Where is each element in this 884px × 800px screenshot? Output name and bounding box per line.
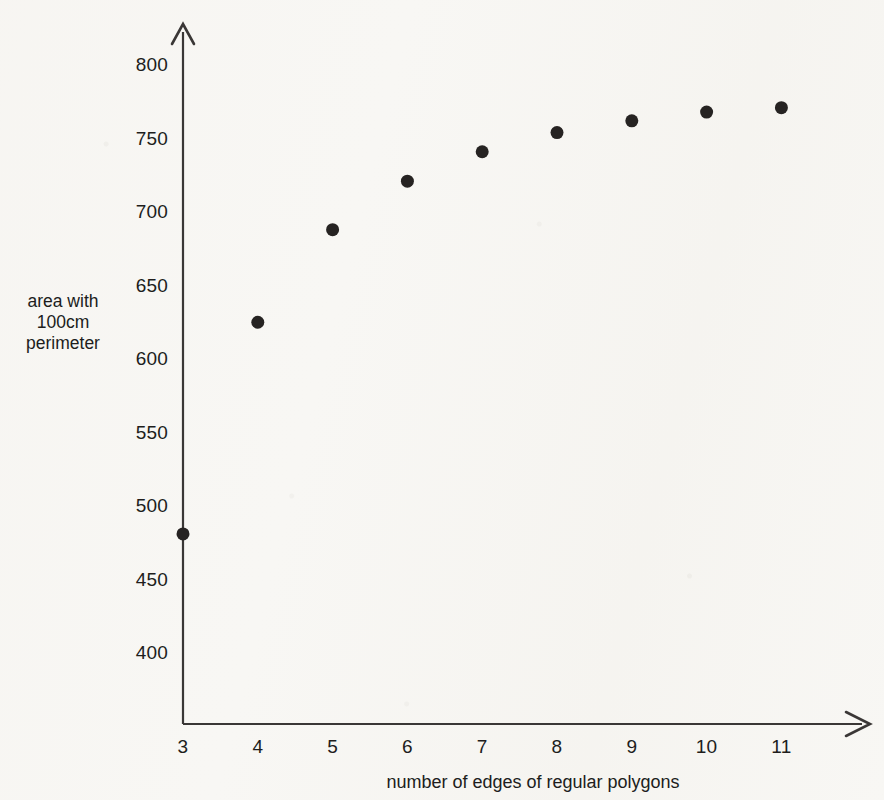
x-axis-title: number of edges of regular polygons — [183, 772, 883, 793]
data-point — [775, 101, 788, 114]
data-point — [551, 126, 564, 139]
data-point — [177, 527, 190, 540]
x-axis-tick-label: 10 — [682, 736, 732, 758]
x-axis-tick-label: 11 — [756, 736, 806, 758]
y-axis-title: area with 100cm perimeter — [4, 291, 122, 354]
data-point — [476, 145, 489, 158]
data-point — [700, 106, 713, 119]
x-axis-tick-label: 7 — [457, 736, 507, 758]
x-axis-tick-label: 8 — [532, 736, 582, 758]
scatter-plot-canvas — [0, 0, 884, 800]
y-axis-tick-label: 800 — [118, 54, 168, 76]
x-axis-tick-label: 6 — [382, 736, 432, 758]
y-axis-tick-label: 550 — [118, 422, 168, 444]
y-axis-tick-label: 700 — [118, 201, 168, 223]
y-axis-tick-label: 500 — [118, 495, 168, 517]
x-axis-tick-label: 3 — [158, 736, 208, 758]
data-point — [625, 114, 638, 127]
chart-page: 400450500550600650700750800 34567891011 … — [0, 0, 884, 800]
y-axis-tick-label: 600 — [118, 348, 168, 370]
x-axis-tick-label: 4 — [233, 736, 283, 758]
y-axis-tick-label: 450 — [118, 569, 168, 591]
y-axis-tick-label: 650 — [118, 275, 168, 297]
y-axis-title-line-2: 100cm — [4, 312, 122, 333]
y-axis-tick-label: 400 — [118, 642, 168, 664]
y-axis-title-line-1: area with — [4, 291, 122, 312]
data-point — [251, 316, 264, 329]
x-axis-tick-label: 5 — [308, 736, 358, 758]
y-axis-tick-label: 750 — [118, 128, 168, 150]
data-point — [326, 223, 339, 236]
data-point — [401, 175, 414, 188]
x-axis-tick-label: 9 — [607, 736, 657, 758]
data-point-group — [177, 101, 788, 540]
y-axis-title-line-3: perimeter — [4, 333, 122, 354]
